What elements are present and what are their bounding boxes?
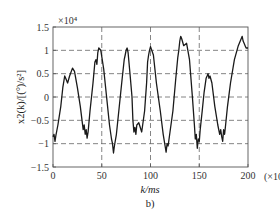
x-tick-label: 200 bbox=[241, 170, 256, 181]
x-tick-label: 150 bbox=[192, 170, 207, 181]
y-tick-label: −1.5 bbox=[31, 162, 49, 173]
x-multiplier-label: (×10) bbox=[264, 171, 280, 183]
subfigure-caption: b) bbox=[146, 198, 155, 210]
y-tick-label: −0.5 bbox=[31, 115, 49, 126]
y-tick-label: 0.5 bbox=[37, 68, 50, 79]
y-tick-label: 1 bbox=[44, 45, 49, 56]
y-axis-ticks: −1.5−1−0.500.511.5 bbox=[31, 22, 56, 173]
line-chart: −1.5−1−0.500.511.5 050100150200 ×10⁴ (×1… bbox=[0, 0, 280, 213]
y-tick-label: 1.5 bbox=[37, 22, 50, 33]
x-tick-label: 100 bbox=[143, 170, 158, 181]
y-tick-label: −1 bbox=[38, 138, 49, 149]
y-multiplier-label: ×10⁴ bbox=[58, 15, 78, 26]
x-tick-label: 50 bbox=[97, 170, 107, 181]
y-tick-label: 0 bbox=[44, 92, 49, 103]
x-axis-label: k/ms bbox=[140, 184, 159, 195]
x-tick-label: 0 bbox=[51, 170, 56, 181]
y-axis-label: x2(k)/[(°)/s²] bbox=[15, 70, 27, 124]
